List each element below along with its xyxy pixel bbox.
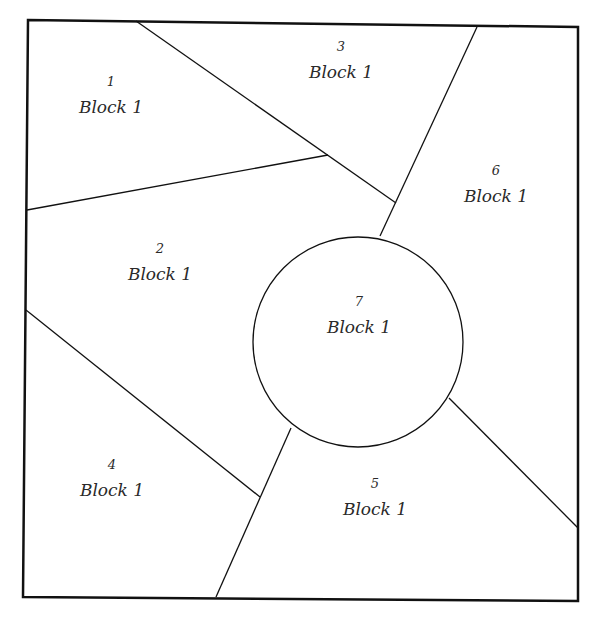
piece-number: 7	[327, 294, 391, 310]
piece-number: 5	[343, 476, 407, 492]
piece-name: Block 1	[464, 185, 528, 207]
piece-number: 4	[80, 457, 144, 473]
piece-name: Block 1	[309, 61, 373, 83]
seam-1-2	[27, 155, 328, 210]
piece-number: 3	[309, 39, 373, 55]
piece-name: Block 1	[327, 316, 391, 338]
piece-1-label: 1 Block 1	[79, 74, 143, 118]
center-circle	[253, 237, 463, 447]
piece-name: Block 1	[80, 479, 144, 501]
piece-number: 6	[464, 163, 528, 179]
piece-7-label: 7 Block 1	[327, 294, 391, 338]
piece-name: Block 1	[343, 498, 407, 520]
piece-5-label: 5 Block 1	[343, 476, 407, 520]
piece-6-label: 6 Block 1	[464, 163, 528, 207]
piece-4-label: 4 Block 1	[80, 457, 144, 501]
seam-5-6	[449, 398, 578, 528]
piece-2-label: 2 Block 1	[128, 241, 192, 285]
piece-name: Block 1	[128, 263, 192, 285]
piece-name: Block 1	[79, 96, 143, 118]
seam-4-5	[216, 428, 291, 597]
piece-number: 2	[128, 241, 192, 257]
piece-number: 1	[79, 74, 143, 90]
piece-3-label: 3 Block 1	[309, 39, 373, 83]
seam-3-6	[380, 27, 477, 236]
